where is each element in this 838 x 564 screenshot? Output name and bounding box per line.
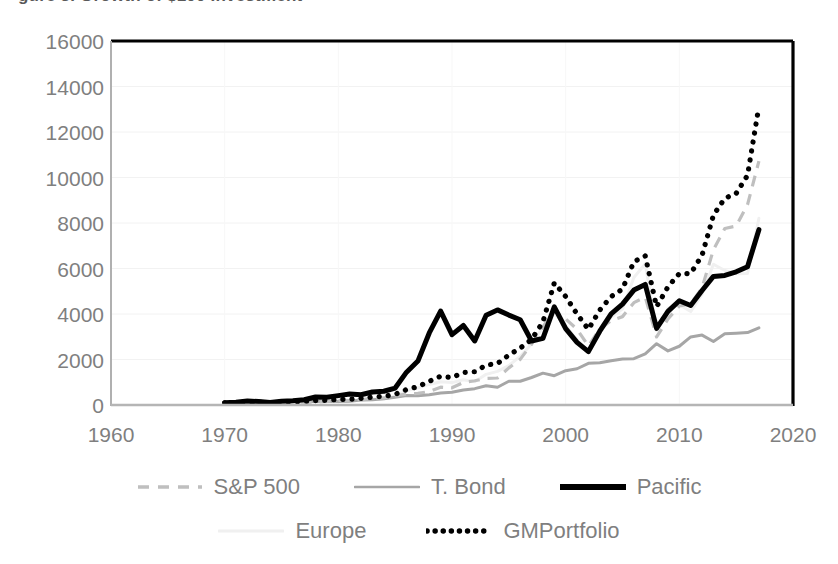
x-tick-label: 1980 bbox=[315, 424, 362, 445]
y-tick-label: 4000 bbox=[12, 304, 104, 325]
legend-label: S&P 500 bbox=[214, 476, 300, 498]
dashed-gray-line-icon bbox=[137, 479, 203, 495]
y-tick-label: 8000 bbox=[12, 213, 104, 234]
legend-item-europe[interactable]: Europe bbox=[218, 520, 366, 542]
x-axis-tick-labels: 1960197019801990200020102020 bbox=[0, 424, 838, 454]
y-tick-label: 14000 bbox=[12, 76, 104, 97]
solid-verylight-line-icon bbox=[218, 523, 284, 539]
y-tick-label: 10000 bbox=[12, 167, 104, 188]
y-tick-label: 16000 bbox=[12, 31, 104, 52]
x-tick-label: 2000 bbox=[542, 424, 589, 445]
x-tick-label: 1960 bbox=[88, 424, 135, 445]
legend-row-2: EuropeGMPortfolio bbox=[0, 520, 838, 542]
legend-item-pacific[interactable]: Pacific bbox=[560, 476, 702, 498]
solid-lightgray-line-icon bbox=[354, 479, 420, 495]
legend-label: Pacific bbox=[637, 476, 702, 498]
x-tick-label: 1990 bbox=[429, 424, 476, 445]
legend-label: T. Bond bbox=[431, 476, 506, 498]
legend-item-t-bond[interactable]: T. Bond bbox=[354, 476, 506, 498]
legend-row-1: S&P 500T. BondPacific bbox=[0, 476, 838, 498]
x-tick-label: 1970 bbox=[201, 424, 248, 445]
y-tick-label: 12000 bbox=[12, 122, 104, 143]
legend-item-gmportfolio[interactable]: GMPortfolio bbox=[426, 520, 619, 542]
dotted-black-line-icon bbox=[426, 523, 492, 539]
legend-item-s-p-500[interactable]: S&P 500 bbox=[137, 476, 300, 498]
y-tick-label: 6000 bbox=[12, 258, 104, 279]
y-tick-label: 2000 bbox=[12, 349, 104, 370]
x-tick-label: 2020 bbox=[770, 424, 817, 445]
x-tick-label: 2010 bbox=[656, 424, 703, 445]
chart-legend: S&P 500T. BondPacific EuropeGMPortfolio bbox=[0, 470, 838, 564]
legend-label: GMPortfolio bbox=[503, 520, 619, 542]
legend-label: Europe bbox=[295, 520, 366, 542]
y-tick-label: 0 bbox=[12, 395, 104, 416]
chart-figure: gure 3. Growth of $100 Investment 160001… bbox=[0, 0, 838, 564]
solid-black-thick-line-icon bbox=[560, 479, 626, 495]
